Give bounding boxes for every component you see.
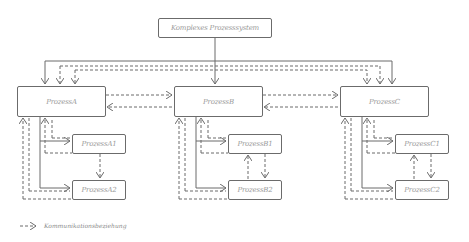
process-a-box[interactable]: ProzessA	[17, 86, 106, 117]
process-a-label: ProzessA	[46, 98, 77, 106]
a-c-comm-line-2	[75, 70, 367, 84]
root-process-label: Komplexes Prozesssystem	[171, 24, 259, 32]
process-b1-box[interactable]: ProzessB1	[228, 134, 282, 154]
process-c1-box[interactable]: ProzessC1	[395, 134, 449, 154]
process-b2-label: ProzessB2	[237, 186, 272, 194]
process-a2-label: ProzessA2	[82, 186, 117, 194]
root-process-box[interactable]: Komplexes Prozesssystem	[158, 18, 272, 38]
process-b1-label: ProzessB1	[237, 140, 272, 148]
process-c2-box[interactable]: ProzessC2	[395, 180, 449, 200]
process-b-label: ProzessB	[203, 98, 234, 106]
process-a1-box[interactable]: ProzessA1	[72, 134, 126, 154]
process-a2-box[interactable]: ProzessA2	[72, 180, 126, 200]
process-b2-box[interactable]: ProzessB2	[228, 180, 282, 200]
process-b-box[interactable]: ProzessB	[174, 86, 263, 117]
process-a1-label: ProzessA1	[82, 140, 117, 148]
legend: Kommunikationsbeziehung	[44, 222, 127, 229]
process-c-label: ProzessC	[369, 98, 400, 106]
process-c2-label: ProzessC2	[404, 186, 439, 194]
legend-label: Kommunikationsbeziehung	[44, 222, 127, 229]
process-c-box[interactable]: ProzessC	[340, 86, 429, 117]
a-c-comm-line-1	[60, 66, 380, 84]
process-c1-label: ProzessC1	[404, 140, 439, 148]
